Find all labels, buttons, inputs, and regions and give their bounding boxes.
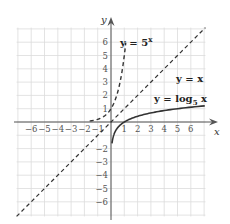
- y-tick-label: 1: [103, 104, 108, 114]
- x-tick-label: −4: [52, 124, 65, 134]
- y-tick-label: 5: [103, 51, 108, 61]
- label-identity: y = x: [175, 73, 204, 84]
- y-tick-label: 4: [103, 64, 108, 74]
- y-tick-label: −2: [95, 144, 108, 154]
- x-tick-label: 4: [161, 124, 166, 134]
- x-tick-label: −2: [78, 124, 91, 134]
- y-tick-label: 6: [103, 37, 108, 47]
- x-tick-label: 6: [188, 124, 193, 134]
- y-tick-label: 3: [103, 77, 108, 87]
- y-tick-label: 2: [103, 90, 108, 100]
- y-axis-label: y: [100, 14, 107, 25]
- graph: x y −6−5−4−3−2−1123456−6−5−4−3−2123456 y…: [0, 0, 230, 224]
- x-tick-label: −6: [25, 124, 38, 134]
- x-tick-label: −1: [91, 124, 104, 134]
- y-tick-label: −4: [95, 170, 108, 180]
- x-tick-label: −5: [38, 124, 51, 134]
- x-tick-label: 1: [122, 124, 127, 134]
- x-axis-label: x: [214, 126, 220, 137]
- x-tick-label: 5: [175, 124, 180, 134]
- label-logarithm: y = log5 x: [153, 93, 208, 107]
- label-exponential: y = 5x: [119, 35, 153, 48]
- x-tick-label: −3: [65, 124, 78, 134]
- y-tick-label: −5: [95, 184, 108, 194]
- x-tick-label: 3: [148, 124, 153, 134]
- axes: x y: [14, 14, 220, 220]
- y-tick-label: −6: [95, 197, 108, 207]
- y-tick-label: −3: [95, 157, 108, 167]
- x-tick-label: 2: [135, 124, 140, 134]
